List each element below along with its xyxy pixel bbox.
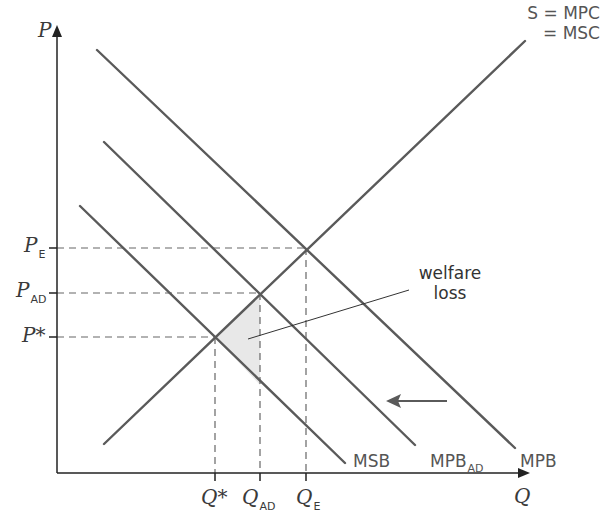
supply-curve xyxy=(104,41,525,444)
msb-curve xyxy=(80,206,345,463)
y-axis-arrow-icon xyxy=(52,25,62,37)
welfare-loss-label: welfare loss xyxy=(400,265,500,302)
quantity-label-qe: QE xyxy=(296,487,320,507)
dashed-guides xyxy=(57,248,306,473)
mpb-ad-label: MPBAD xyxy=(430,453,484,470)
price-label-pstar: P* xyxy=(22,325,45,345)
price-label-pe: PE xyxy=(24,235,45,255)
axis-ticks xyxy=(49,248,306,481)
msb-label: MSB xyxy=(353,453,390,470)
diagram-canvas xyxy=(0,0,609,522)
supply-label: S = MPC = MSC xyxy=(520,5,600,42)
y-axis-label: P xyxy=(38,20,51,40)
mpb-label: MPB xyxy=(520,453,557,470)
quantity-label-qad: QAD xyxy=(242,487,275,507)
welfare-loss-area xyxy=(215,293,260,385)
x-axis-label: Q xyxy=(514,486,530,506)
quantity-label-qstar: Q* xyxy=(201,487,227,507)
price-label-pad: PAD xyxy=(16,280,46,300)
welfare-loss-pointer xyxy=(248,290,409,339)
